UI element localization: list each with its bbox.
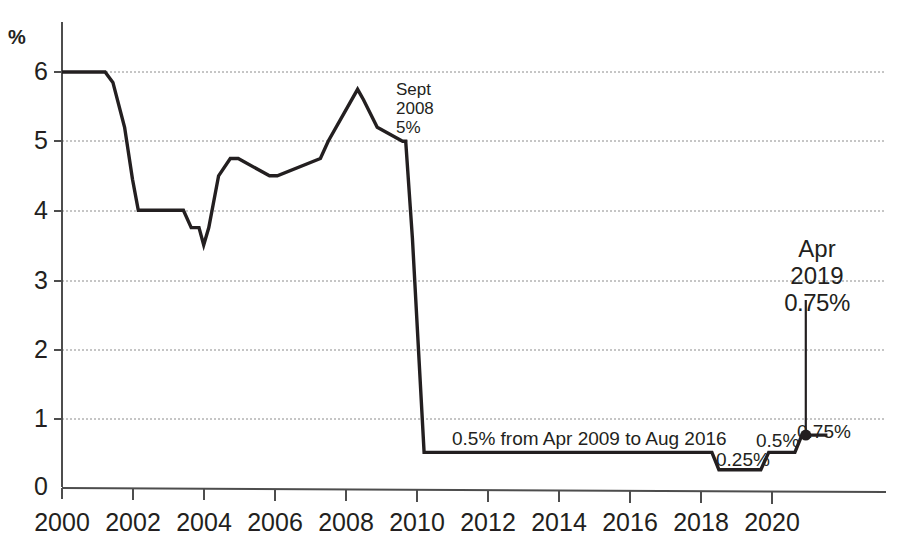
annotation-half-percent-span: 0.5% from Apr 2009 to Aug 2016 <box>452 428 727 449</box>
annotation-step-05: 0.5% <box>756 430 799 452</box>
annotation-step-075: 0.75% <box>797 421 851 443</box>
annotation-step-025: 0.25% <box>716 449 770 471</box>
annotation-apr-2019-line3: 0.75% <box>757 290 877 317</box>
annotation-sept-2008: Sept 2008 5% <box>396 80 434 137</box>
annotation-sept-2008-line2: 2008 <box>396 99 434 118</box>
annotation-apr-2019-line2: 2019 <box>757 263 877 290</box>
y-axis-ticks <box>54 72 62 419</box>
interest-rate-chart: % 6 5 4 3 2 1 0 2000 2002 2004 2006 2008… <box>0 0 898 549</box>
data-line-bank-rate-path <box>62 72 827 470</box>
x-axis-line <box>62 488 886 492</box>
annotation-apr-2019: Apr 2019 0.75% <box>757 236 877 317</box>
annotation-apr-2019-line1: Apr <box>757 236 877 263</box>
annotation-sept-2008-line3: 5% <box>396 118 434 137</box>
annotation-sept-2008-line1: Sept <box>396 80 434 99</box>
